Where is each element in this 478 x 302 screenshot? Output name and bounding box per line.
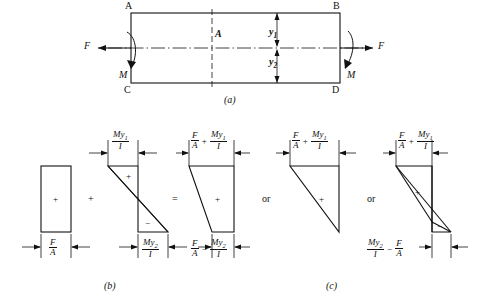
caption-c: (c): [326, 280, 337, 291]
term-operator: +: [201, 136, 208, 146]
reversal-bottom-arrow-right-head: [451, 245, 458, 250]
bending-bottom-arrow-left-head: [131, 245, 138, 250]
force-right-arrowhead: [365, 45, 373, 51]
moment-right-label: M: [347, 70, 355, 80]
fraction-denominator: I: [112, 141, 129, 151]
term-operator: +: [408, 136, 415, 146]
fraction-numerator: My2: [142, 238, 159, 249]
fraction-denominator: A: [292, 140, 300, 150]
term-operator: −: [386, 244, 393, 254]
fraction-denominator: A: [191, 140, 199, 150]
numerator-subscript: 1: [223, 134, 226, 141]
fraction-My2-over-I: My2 I: [367, 238, 384, 260]
y1-label: y1: [269, 27, 277, 40]
bending-block-top-label: My1 I: [112, 130, 129, 152]
fraction-denominator: I: [210, 141, 227, 151]
axial-block-bottom-label: F A: [49, 238, 57, 257]
operator-or-1: or: [262, 194, 270, 204]
fraction-denominator: A: [398, 140, 406, 150]
fraction-My1-over-I: My1 I: [417, 130, 434, 152]
trapezoid-top-arrow-left-head: [182, 151, 189, 156]
fraction-My2-over-I: My2 I: [210, 238, 227, 260]
axial-dim-arrow-right-head: [71, 245, 78, 250]
triangle-block-sign: +: [319, 195, 324, 204]
fraction-denominator: I: [210, 249, 227, 259]
term-operator: +: [302, 136, 309, 146]
operator-equals: =: [172, 194, 178, 204]
fraction-numerator: My2: [210, 238, 227, 249]
y1-arrowhead-top: [275, 13, 280, 20]
fraction-F-over-A: F A: [398, 131, 406, 150]
fraction-numerator: My1: [210, 130, 227, 141]
fraction-numerator: F: [292, 131, 300, 140]
section-label-A: A: [215, 29, 222, 39]
numerator-subscript: 2: [155, 242, 158, 249]
force-left-arrowhead: [98, 45, 106, 51]
moment-left-arrowhead: [127, 60, 136, 69]
axial-dim-arrow-left-head: [34, 245, 41, 250]
numerator-subscript: 1: [430, 134, 433, 141]
bending-top-arrow-right-head: [138, 151, 145, 156]
term-operator: −: [201, 244, 208, 254]
reversal-bottom-arrow-left-head: [425, 245, 432, 250]
caption-a: (a): [224, 94, 236, 105]
axial-block-sign: +: [53, 195, 58, 204]
triangle-block-top-label: F A + My1 I: [292, 130, 328, 152]
y1-arrowhead-bottom: [275, 40, 280, 47]
numerator-subscript: 2: [380, 242, 383, 249]
y2-arrowhead-top: [275, 49, 280, 56]
fraction-denominator: A: [395, 248, 403, 258]
force-right-label: F: [378, 41, 384, 51]
fraction-numerator: F: [395, 239, 403, 248]
trapezoid-block-bottom-label: F A − My2 I: [191, 238, 227, 260]
fraction-numerator: F: [398, 131, 406, 140]
beam-corner-label-D: D: [332, 85, 339, 95]
caption-b: (b): [104, 280, 116, 291]
fraction-numerator: F: [191, 131, 199, 140]
fraction-F-over-A: F A: [191, 131, 199, 150]
numerator-subscript: 1: [125, 134, 128, 141]
trapezoid-outline: [189, 166, 234, 232]
fraction-numerator: F: [49, 238, 57, 247]
fraction-denominator: I: [417, 141, 434, 151]
fraction-F-over-A: F A: [395, 239, 403, 258]
triangle-outline: [290, 166, 339, 232]
fraction-denominator: I: [142, 249, 159, 259]
fraction-F-over-A: F A: [191, 239, 199, 258]
trapezoid-top-arrow-right-head: [234, 151, 241, 156]
force-left-label: F: [84, 41, 90, 51]
numerator-text: My: [143, 237, 155, 247]
y2-arrowhead-bottom: [275, 76, 280, 83]
beam-corner-label-A: A: [125, 1, 132, 11]
reversal-main-triangle: [396, 166, 432, 222]
fraction-numerator: My2: [367, 238, 384, 249]
fraction-denominator: A: [191, 248, 199, 258]
trapezoid-bottom-arrow-right-head: [234, 245, 241, 250]
numerator-text: My: [211, 129, 223, 139]
numerator-text: My: [418, 129, 430, 139]
combined-stress-triangle-shape: [276, 140, 356, 232]
y1-subscript: 1: [273, 32, 277, 40]
bending-block-bottom-label: My2 I: [142, 238, 159, 260]
numerator-text: My: [312, 129, 324, 139]
fraction-My2-over-I: My2 I: [142, 238, 159, 260]
operator-or-2: or: [367, 194, 375, 204]
y2-label: y2: [269, 57, 277, 70]
triangle-top-arrow-left-head: [283, 151, 290, 156]
bending-top-arrow-left-head: [101, 151, 108, 156]
reversal-block-top-label: F A + My1 I: [398, 130, 434, 152]
fraction-numerator: My1: [311, 130, 328, 141]
reversal-block-sign-top: +: [415, 188, 420, 197]
moment-left-label: M: [119, 70, 127, 80]
fraction-numerator: My1: [417, 130, 434, 141]
fraction-F-over-A: F A: [49, 238, 57, 257]
trapezoid-block-top-label: F A + My1 I: [191, 130, 227, 152]
beam-corner-label-C: C: [124, 85, 131, 95]
bending-block-sign-top: +: [126, 172, 131, 181]
reversal-top-arrow-left-head: [389, 151, 396, 156]
numerator-text: My: [368, 237, 380, 247]
fraction-numerator: My1: [112, 130, 129, 141]
trapezoid-block-sign: +: [215, 195, 220, 204]
fraction-My1-over-I: My1 I: [112, 130, 129, 152]
fraction-denominator: A: [49, 247, 57, 257]
